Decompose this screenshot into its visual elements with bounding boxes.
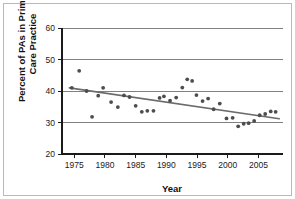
trend-line [69,88,279,119]
y-tick-label-50: 50 [46,55,56,65]
data-point-35 [274,110,278,114]
x-tick-label-2005: 2005 [249,160,268,170]
data-point-33 [263,112,267,116]
data-point-25 [218,102,222,106]
data-point-4 [96,94,100,98]
data-point-11 [140,110,144,114]
x-axis-ticks: 1975198019851990199520002005 [65,154,268,170]
gridlines [62,28,283,123]
data-point-8 [122,94,126,98]
data-point-6 [109,100,113,104]
y-axis-ticks: 2030405060 [46,23,62,159]
x-tick-label-2000: 2000 [218,160,237,170]
data-point-24 [212,107,216,111]
data-point-7 [116,105,120,109]
x-tick-label-1975: 1975 [65,160,84,170]
data-point-3 [90,115,94,119]
y-axis-title-wrapper: Percent of PAs in Primary Care Practice [9,0,45,109]
trend-line-group [69,88,279,119]
data-point-15 [162,94,166,98]
x-tick-label-1985: 1985 [126,160,145,170]
data-point-2 [85,89,89,93]
data-point-29 [242,122,246,126]
x-tick-label-1990: 1990 [157,160,176,170]
data-point-26 [225,117,229,121]
x-tick-label-1980: 1980 [96,160,115,170]
data-point-13 [152,109,156,113]
data-point-30 [247,121,251,125]
chart-figure: 2030405060 1975198019851990199520002005 … [0,0,295,199]
y-tick-label-20: 20 [46,149,56,159]
data-point-31 [252,119,256,123]
data-point-21 [195,93,199,97]
data-point-5 [101,86,105,90]
data-point-0 [70,86,74,90]
data-point-34 [269,110,273,114]
data-point-22 [201,99,205,103]
data-point-17 [174,96,178,100]
data-point-27 [231,116,235,120]
x-axis-title: Year [162,183,182,194]
y-tick-label-60: 60 [46,23,56,33]
data-points-group [70,69,278,128]
data-point-20 [190,79,194,83]
data-point-14 [158,96,162,100]
data-point-9 [128,95,132,99]
data-point-19 [185,77,189,81]
x-tick-label-1995: 1995 [188,160,207,170]
data-point-12 [145,109,149,113]
data-point-28 [236,124,240,128]
data-point-1 [77,69,81,73]
data-point-16 [168,99,172,103]
y-axis-title: Percent of PAs in Primary Care Practice [16,0,38,107]
data-point-18 [180,86,184,90]
data-point-32 [258,113,262,117]
y-tick-label-30: 30 [46,118,56,128]
data-point-10 [134,104,138,108]
data-point-23 [206,97,210,101]
y-tick-label-40: 40 [46,86,56,96]
